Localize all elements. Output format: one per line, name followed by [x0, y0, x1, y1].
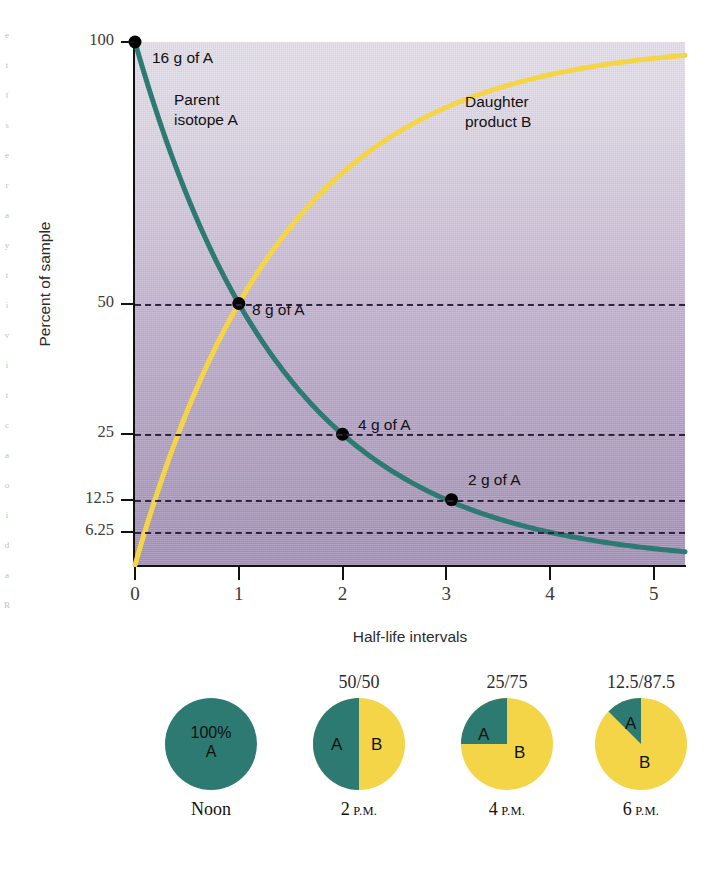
pie-graphic: AB [461, 698, 553, 790]
margin-artifact-char: e [0, 140, 14, 170]
margin-artifact-char: i [0, 290, 14, 320]
x-axis-tick-label: 2 [328, 583, 358, 605]
pie-time-suffix: P.M. [498, 804, 526, 818]
y-axis-tick-mark [121, 433, 135, 435]
pie-time-label: Noon [136, 799, 286, 820]
margin-artifact-char: t [0, 260, 14, 290]
margin-artifact-char: f [0, 80, 14, 110]
pie-ratio-label: 25/75 [432, 672, 582, 698]
pie-time-label: 4 P.M. [432, 799, 582, 820]
y-axis-tick-mark [121, 499, 135, 501]
margin-artifact-char: a [0, 200, 14, 230]
y-axis-tick-mark [121, 531, 135, 533]
y-axis-tick-label: 6.25 [38, 520, 114, 540]
pie-slice-label-a: A [331, 735, 342, 755]
x-axis-tick-label: 0 [120, 583, 150, 605]
margin-artifact-char: R [0, 590, 14, 620]
x-axis-tick-label: 1 [224, 583, 254, 605]
margin-artifact-char: d [0, 530, 14, 560]
y-axis-tick-label: 25 [38, 422, 114, 442]
margin-artifact-char: e [0, 20, 14, 50]
margin-artifact-char: o [0, 470, 14, 500]
margin-artifact-char: s [0, 110, 14, 140]
margin-artifact-char: v [0, 320, 14, 350]
pie-slice-label-b: B [371, 735, 382, 755]
margin-artifact-char: i [0, 350, 14, 380]
x-axis-tick-mark [653, 567, 655, 580]
pie-time-label: 2 P.M. [284, 799, 434, 820]
gridline [135, 532, 685, 534]
x-axis-tick-label: 3 [431, 583, 461, 605]
y-axis-tick-label: 12.5 [38, 488, 114, 508]
margin-artifact-char: t [0, 50, 14, 80]
pie-chart-cell: 12.5/87.5AB6 P.M. [566, 672, 716, 820]
margin-artifact-char: a [0, 560, 14, 590]
pie-time-suffix: P.M. [350, 804, 378, 818]
pie-time-label: 6 P.M. [566, 799, 716, 820]
gridline [135, 500, 685, 502]
daughter-curve-label: Daughter product B [465, 92, 531, 132]
point-label-8g: 8 g of A [252, 300, 305, 320]
x-axis-title: Half-life intervals [135, 628, 685, 646]
page-margin-artifact: etfseraytivitcaoidaR [0, 20, 14, 580]
x-axis-tick-mark [134, 567, 136, 580]
pie-chart-cell: 25/75AB4 P.M. [432, 672, 582, 820]
pie-ratio-label: 12.5/87.5 [566, 672, 716, 698]
pie-graphic: 100% A [165, 698, 257, 790]
pie-ratio-label: 50/50 [284, 672, 434, 698]
pie-slice-label-b: B [639, 753, 650, 773]
point-label-16g: 16 g of A [152, 48, 213, 68]
margin-artifact-char: c [0, 410, 14, 440]
margin-artifact-char: t [0, 380, 14, 410]
x-axis-tick-label: 4 [535, 583, 565, 605]
pie-time-suffix: P.M. [632, 804, 660, 818]
point-label-4g: 4 g of A [358, 415, 411, 435]
y-axis-title: Percent of sample [36, 199, 54, 369]
y-axis-tick-label: 50 [38, 292, 114, 312]
x-axis-tick-mark [238, 567, 240, 580]
x-axis-tick-mark [342, 567, 344, 580]
margin-artifact-char: r [0, 170, 14, 200]
y-axis-tick-mark [121, 303, 135, 305]
x-axis-tick-label: 5 [639, 583, 669, 605]
margin-artifact-char: y [0, 230, 14, 260]
pie-graphic: AB [595, 698, 687, 790]
x-axis-tick-mark [549, 567, 551, 580]
gridline [135, 304, 685, 306]
y-axis-tick-label: 100 [38, 30, 114, 50]
pie-center-label: 100% A [165, 724, 257, 762]
point-label-2g: 2 g of A [468, 470, 521, 490]
pie-slice-label-a: A [478, 725, 489, 745]
pie-chart-cell: 50/50AB2 P.M. [284, 672, 434, 820]
x-axis-line [133, 565, 686, 567]
y-axis-tick-mark [121, 41, 135, 43]
pie-chart-cell: 100% ANoon [136, 672, 286, 820]
pie-slice-label-a: A [625, 714, 636, 734]
margin-artifact-char: a [0, 440, 14, 470]
margin-artifact-char: i [0, 500, 14, 530]
pie-chart-row: 100% ANoon50/50AB2 P.M.25/75AB4 P.M.12.5… [0, 672, 718, 895]
parent-curve-label: Parent isotope A [174, 90, 238, 130]
pie-ratio-label [136, 672, 286, 698]
pie-slice-label-b: B [514, 743, 525, 763]
x-axis-tick-mark [445, 567, 447, 580]
pie-graphic: AB [313, 698, 405, 790]
